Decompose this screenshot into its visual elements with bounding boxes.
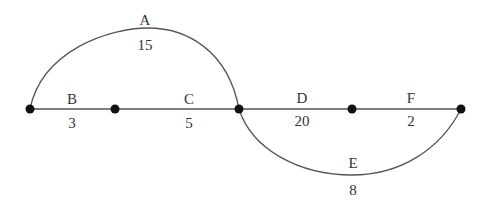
edge-a-name: A: [140, 12, 151, 28]
edge-f-value: 2: [407, 113, 415, 129]
edge-b-value: 3: [68, 115, 76, 131]
edge-e-value: 8: [349, 182, 357, 198]
edge-a: [30, 28, 239, 109]
node-3: [235, 105, 244, 114]
edge-d-name: D: [297, 90, 308, 106]
node-1: [26, 105, 35, 114]
edge-b-name: B: [67, 91, 77, 107]
edge-f-name: F: [407, 90, 415, 106]
node-5: [457, 105, 466, 114]
edge-a-value: 15: [138, 37, 153, 53]
node-4: [348, 105, 357, 114]
edge-c-value: 5: [185, 115, 193, 131]
edge-e-name: E: [348, 155, 357, 171]
edge-d-value: 20: [295, 113, 310, 129]
edge-c-name: C: [184, 91, 194, 107]
network-diagram: A 15 B 3 C 5 D 20 E 8 F 2: [0, 0, 494, 205]
node-2: [111, 105, 120, 114]
